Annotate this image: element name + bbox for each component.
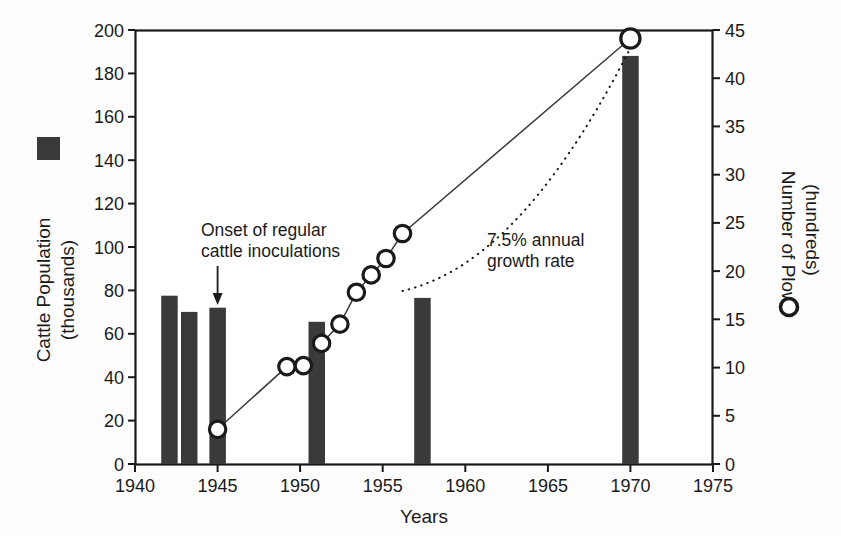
bar-cattle-1943	[181, 312, 198, 464]
right-tick-label: 45	[725, 21, 745, 41]
x-tick-label: 1955	[363, 476, 403, 496]
x-tick-label: 1975	[693, 476, 733, 496]
right-tick-label: 0	[725, 455, 735, 475]
x-tick-label: 1965	[528, 476, 568, 496]
left-tick-label: 180	[94, 64, 124, 84]
data-point-plows-1949	[279, 358, 295, 374]
right-tick-label: 15	[725, 310, 745, 330]
right-tick-label: 5	[725, 406, 735, 426]
data-point-plows-1953	[348, 284, 364, 300]
bar-cattle-1970	[622, 56, 639, 464]
left-axis-title-units: (thousands)	[57, 240, 78, 340]
data-point-plows-1950	[295, 357, 311, 373]
bar-cattle-1945	[209, 308, 226, 464]
data-point-plows-1951	[313, 335, 329, 351]
left-axis: 0 20 40 60 80 100 120 140 160 180 200 Ca…	[33, 21, 135, 475]
open-circle-icon	[781, 299, 798, 316]
x-tick-label: 1945	[198, 476, 238, 496]
right-tick-label: 40	[725, 69, 745, 89]
left-tick-label: 120	[94, 194, 124, 214]
onset-annotation-line1: Onset of regular	[201, 220, 327, 240]
left-axis-title: Cattle Population	[33, 218, 54, 363]
x-tick-label: 1950	[280, 476, 320, 496]
left-tick-label: 60	[104, 324, 124, 344]
x-axis-title: Years	[400, 506, 448, 527]
x-axis: 1940 1945 1950 1955 1960 1965 1970 1975 …	[115, 465, 733, 528]
onset-annotation-line2: cattle inoculations	[201, 241, 340, 261]
data-point-plows-1945	[209, 421, 225, 437]
left-axis-ticks	[128, 30, 135, 464]
right-axis: 0 5 10 15 20 25 30 35 40 45 Number of Pl…	[713, 21, 824, 475]
left-tick-label: 0	[114, 455, 124, 475]
left-tick-label: 80	[104, 281, 124, 301]
left-tick-label: 40	[104, 368, 124, 388]
right-tick-label: 30	[725, 165, 745, 185]
x-tick-label: 1960	[445, 476, 485, 496]
x-tick-label: 1940	[115, 476, 155, 496]
right-tick-label: 10	[725, 358, 745, 378]
data-point-plows-1952	[332, 316, 348, 332]
data-point-plows-1954	[363, 267, 379, 283]
filled-square-icon	[37, 137, 60, 160]
left-tick-label: 140	[94, 151, 124, 171]
left-tick-label: 100	[94, 238, 124, 258]
left-tick-label: 20	[104, 411, 124, 431]
x-axis-ticks	[135, 465, 713, 473]
data-point-plows-1955	[378, 250, 394, 266]
right-axis-title-units: (hundreds)	[802, 184, 823, 276]
x-tick-label: 1970	[610, 476, 650, 496]
left-tick-label: 200	[94, 21, 124, 41]
chart-canvas: 0 20 40 60 80 100 120 140 160 180 200 Ca…	[0, 0, 841, 536]
bar-cattle-1942	[161, 296, 178, 464]
growth-rate-line1: 7.5% annual	[487, 230, 584, 250]
left-tick-label: 160	[94, 107, 124, 127]
chart-figure: 0 20 40 60 80 100 120 140 160 180 200 Ca…	[0, 0, 841, 536]
bar-cattle-1957	[414, 298, 431, 464]
growth-rate-line2: growth rate	[487, 251, 575, 271]
right-tick-label: 35	[725, 117, 745, 137]
right-axis-title: Number of Plows	[778, 171, 799, 316]
data-point-plows-1970	[621, 29, 640, 48]
right-tick-label: 25	[725, 213, 745, 233]
right-tick-label: 20	[725, 262, 745, 282]
data-point-plows-1956	[394, 225, 410, 241]
right-axis-ticks	[713, 30, 721, 464]
